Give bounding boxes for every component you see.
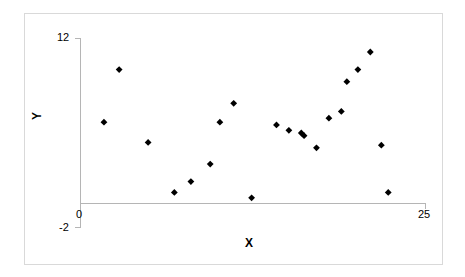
data-point [248,194,255,201]
data-point [338,108,345,115]
data-point [171,189,178,196]
data-point [216,119,223,126]
data-point [116,66,123,73]
chart-canvas [0,0,465,277]
data-point [207,161,214,168]
y-axis-tick-label-min: -2 [59,221,69,233]
x-axis-tick-label-min: 0 [76,208,82,220]
data-point [230,100,237,107]
data-point [343,78,350,85]
data-point [273,122,280,129]
y-axis-tick-label-max: 12 [57,31,69,43]
data-point [101,119,108,126]
data-point [354,66,361,73]
data-point [385,189,392,196]
data-point [188,178,195,185]
data-point [285,127,292,134]
x-axis-title: X [245,236,253,250]
data-point [313,144,320,151]
scatter-chart: 12 -2 0 25 X Y [0,0,465,277]
data-point [367,49,374,56]
data-point-layer [101,49,392,202]
data-point [326,115,333,122]
y-axis-title: Y [30,112,44,120]
data-point [145,139,152,146]
x-axis-tick-label-max: 25 [418,208,430,220]
data-point [378,142,385,149]
